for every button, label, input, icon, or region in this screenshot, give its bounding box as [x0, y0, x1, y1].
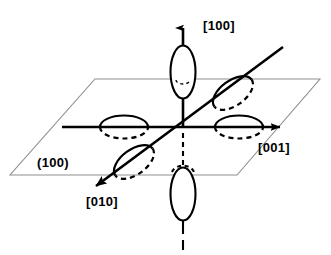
axis-label-100: [100] — [203, 18, 235, 33]
orbital-axes-figure: [100] [001] [010] (100) — [0, 0, 331, 255]
lobe-top — [171, 46, 196, 99]
axis-label-001: [001] — [258, 140, 290, 155]
axis-label-010: [010] — [86, 194, 118, 209]
lobe-bottom — [171, 168, 196, 221]
plane-label-100: (100) — [37, 155, 69, 170]
lobe-diagonal-upper-right — [207, 69, 259, 116]
figure-canvas — [0, 0, 331, 255]
